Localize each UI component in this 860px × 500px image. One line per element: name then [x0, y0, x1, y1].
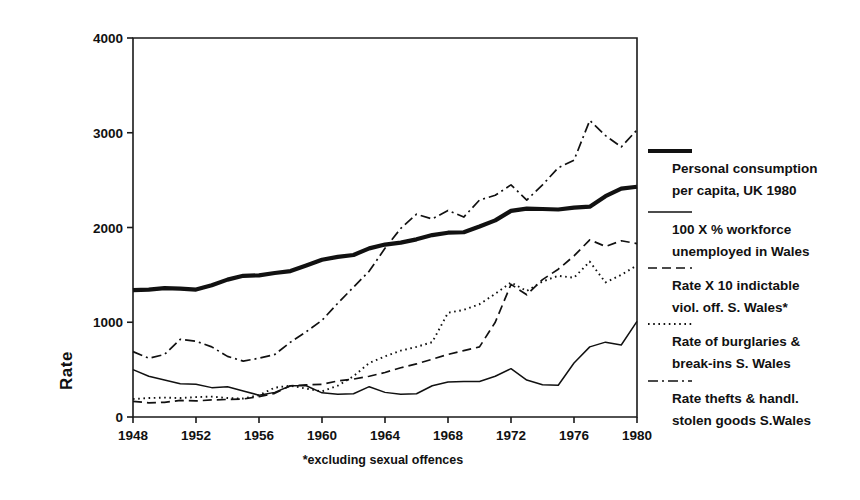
x-tick-label: 1952 [181, 428, 211, 443]
footnote-label: *excluding sexual offences [303, 453, 464, 467]
legend-label-line1: Rate X 10 indictable [672, 278, 800, 293]
x-tick-label: 1956 [244, 428, 275, 443]
y-tick-label: 0 [115, 410, 123, 425]
legend-label-line2: unemployed in Wales [672, 244, 810, 259]
x-tick-label: 1976 [559, 428, 590, 443]
legend-label-line2: break-ins S. Wales [672, 356, 791, 371]
x-tick-label: 1972 [496, 428, 526, 443]
legend-label-line1: Rate of burglaries & [672, 334, 801, 349]
line-chart: 01000200030004000 1948195219561960196419… [0, 0, 860, 500]
y-tick-label: 2000 [93, 221, 123, 236]
y-tick-label: 3000 [93, 126, 123, 141]
x-tick-label: 1948 [118, 428, 149, 443]
legend-label-line2: per capita, UK 1980 [672, 183, 797, 198]
y-tick-label: 4000 [93, 31, 123, 46]
legend-label-line2: stolen goods S.Wales [672, 413, 811, 428]
x-tick-label: 1960 [307, 428, 337, 443]
legend-label-line1: Rate thefts & handl. [672, 391, 799, 406]
y-axis-title: Rate [57, 351, 76, 390]
x-tick-label: 1964 [370, 428, 401, 443]
legend-label-line2: viol. off. S. Wales* [672, 300, 789, 315]
chart-figure: 01000200030004000 1948195219561960196419… [0, 0, 860, 500]
x-tick-label: 1980 [622, 428, 652, 443]
y-tick-label: 1000 [93, 315, 123, 330]
x-tick-label: 1968 [433, 428, 464, 443]
legend-label-line1: Personal consumption [672, 161, 818, 176]
legend-label-line1: 100 X % workforce [672, 222, 792, 237]
